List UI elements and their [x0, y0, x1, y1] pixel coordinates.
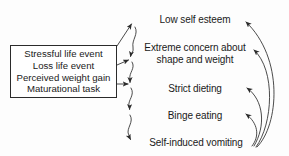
risk-factor-item: Maturational task	[27, 83, 100, 95]
risk-factors-box: Stressful life event Loss life event Per…	[10, 45, 117, 98]
risk-factor-item: Loss life event	[33, 60, 94, 72]
connector-risk-factors-to-low-self-esteem	[117, 24, 132, 46]
connector-binge-eating-to-self-induced-vomiting	[128, 115, 131, 140]
stage-label-binge-eating: Binge eating	[150, 110, 240, 122]
connector-strict-dieting-to-binge-eating	[129, 88, 133, 110]
risk-factor-item: Perceived weight gain	[17, 72, 111, 84]
stage-label-self-induced-vomiting: Self-induced vomiting	[136, 137, 256, 149]
connector-extreme-concern-to-strict-dieting	[130, 62, 133, 83]
connector-self-induced-vomiting-to-low-self-esteem	[246, 22, 274, 147]
diagram-canvas: Stressful life event Loss life event Per…	[0, 0, 289, 156]
risk-factor-item: Stressful life event	[24, 48, 102, 60]
stage-label-strict-dieting: Strict dieting	[150, 83, 240, 95]
stage-label-low-self-esteem: Low self esteem	[139, 14, 251, 26]
stage-label-extreme-concern: Extreme concern about shape and weight	[133, 42, 257, 65]
connector-risk-factors-to-extreme-concern	[117, 60, 129, 65]
